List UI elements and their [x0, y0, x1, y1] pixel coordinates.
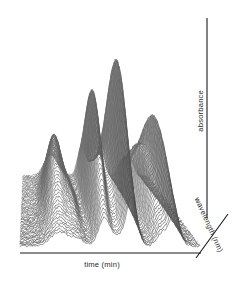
surface-plot-canvas — [0, 0, 246, 281]
mesh-column — [27, 176, 28, 246]
absorbance-axis-label: absorbance — [196, 90, 205, 132]
time-axis-label: time (min) — [0, 260, 204, 269]
surface-mesh — [20, 59, 200, 247]
mesh-column — [148, 176, 200, 246]
chromatogram-figure: time (min) absorbance wavelength (nm) — [0, 0, 246, 281]
